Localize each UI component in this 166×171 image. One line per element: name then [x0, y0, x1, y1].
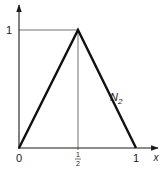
function-label: N2 — [110, 91, 123, 106]
x-axis-label: x — [153, 152, 160, 163]
n2-hat-function-curve — [19, 30, 136, 148]
x-tick-label-origin: 0 — [16, 152, 22, 164]
function-label-main: N — [110, 91, 118, 103]
x-tick-label-half-denominator: 2 — [76, 160, 80, 167]
hat-function-diagram: 1 0 1 2 1 x N2 — [0, 0, 166, 171]
function-label-subscript: 2 — [117, 97, 123, 106]
x-tick-label-half-numerator: 1 — [76, 151, 80, 158]
x-tick-label-one: 1 — [133, 152, 139, 164]
y-tick-label-one: 1 — [6, 24, 12, 36]
